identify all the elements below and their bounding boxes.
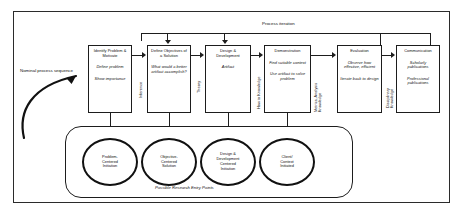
process-box-demonstration[interactable]: Demonstration Find suitable context Use … — [264, 45, 311, 113]
connector-label-line2: Knowledge — [390, 89, 394, 108]
entry-point-objective-centered[interactable]: Objective- Centered Solution — [141, 138, 197, 186]
entry-points-caption: Possible Research Entry Points — [155, 185, 214, 190]
connector-arrowhead-4 — [332, 52, 336, 58]
process-box-title: Evaluation — [350, 49, 369, 54]
entry-point-line3: Solution — [162, 163, 176, 168]
connector-label-line1: Disciplinary — [386, 88, 390, 108]
connector-label-line2: Knowledge — [318, 93, 322, 112]
iteration-bus-left-cap — [141, 33, 142, 41]
connector-label-disciplinary-knowledge: Disciplinary Knowledge — [386, 48, 395, 108]
connector-label-theory: Theory — [197, 81, 201, 93]
connector-arrowhead-2 — [200, 52, 204, 58]
connector-label-metrics-analysis-knowledge: Metrics, Analysis Knowledge — [314, 52, 323, 112]
process-box-design-development[interactable]: Design & Development Artifact — [205, 45, 251, 113]
entry-point-label: Client/ Context Initiated — [274, 155, 300, 169]
nominal-process-sequence-arrow — [16, 60, 106, 140]
process-box-title: Identify Problem & Motivate — [91, 49, 129, 58]
iteration-riser-communication — [430, 33, 431, 45]
entry-point-problem-centered[interactable]: Problem- Centered Initiation — [82, 138, 138, 186]
entry-point-design-development-centered[interactable]: Design & Development Centered Initiation — [200, 138, 256, 186]
process-box-sub2: Professional publications — [399, 77, 437, 86]
process-box-sub1: Artifact — [222, 65, 235, 70]
diagram-canvas: Process iteration Identify Problem & Mot… — [0, 0, 463, 218]
connector-label-how-to-knowledge: How to Knowledge — [257, 77, 261, 109]
entry-point-line3: Initiated — [280, 163, 294, 168]
process-box-evaluation[interactable]: Evaluation Observe how effective, effici… — [337, 45, 382, 113]
process-box-sub1: Observe how effective, efficient — [340, 61, 379, 70]
process-box-communication[interactable]: Communication Scholarly publications Pro… — [396, 45, 440, 113]
process-box-define-objectives[interactable]: Define Objectives of a Solution What wou… — [147, 45, 191, 113]
entry-point-client-context[interactable]: Client/ Context Initiated — [259, 138, 315, 186]
process-box-sub1: What would a better artifact accomplish? — [150, 65, 188, 74]
process-box-title: Demonstration — [275, 49, 301, 54]
connector-arrowhead-1 — [142, 52, 146, 58]
entry-point-label: Objective- Centered Solution — [154, 155, 184, 169]
iteration-arrowhead-design-development — [222, 40, 228, 44]
entry-point-label: Design & Development Centered Initiation — [211, 152, 246, 171]
process-box-sub1: Find suitable context — [269, 61, 306, 66]
connector-label-line1: Metrics, Analysis — [314, 83, 318, 112]
process-box-sub1: Scholarly publications — [399, 61, 437, 70]
process-box-sub2: Iterate back to design — [340, 77, 378, 82]
iteration-arrowhead-define-objectives — [165, 40, 171, 44]
process-box-title: Design & Development — [208, 49, 248, 58]
process-iteration-label: Process iteration — [262, 21, 295, 26]
entry-point-line4: Initiation — [221, 166, 236, 171]
process-box-title: Define Objectives of a Solution — [150, 49, 188, 58]
connector-arrowhead-3 — [259, 52, 263, 58]
connector-label-inference: Inference — [139, 82, 143, 98]
entry-point-line3: Initiation — [103, 163, 118, 168]
iteration-bus-horizontal — [141, 33, 431, 34]
process-box-title: Communication — [404, 49, 432, 54]
process-box-sub2: Use artifact to solve problem — [267, 72, 308, 81]
entry-point-label: Problem- Centered Initiation — [96, 155, 124, 169]
iteration-riser-evaluation — [380, 33, 381, 45]
